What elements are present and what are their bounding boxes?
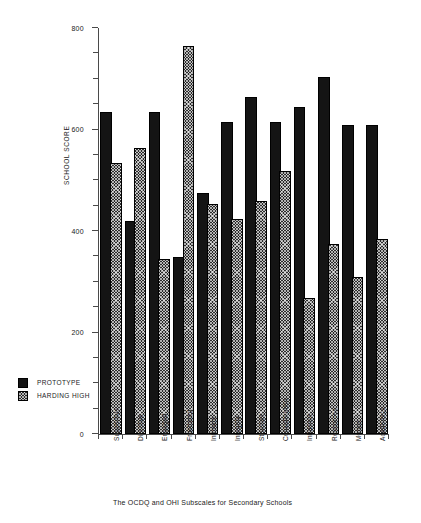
x-axis-label-morale: Morale (355, 420, 362, 441)
x-axis-tick (291, 434, 292, 439)
bar-harding-high (158, 259, 170, 434)
bar-harding-high (231, 219, 243, 434)
chart-caption: The OCDQ and OHI Subscales for Secondary… (113, 499, 292, 506)
bar-group (267, 28, 291, 434)
legend-item-prototype: PROTOTYPE (18, 378, 90, 387)
y-axis-tick-label: 200 (71, 329, 84, 336)
bar-harding-high (376, 239, 388, 434)
x-axis-tick (98, 434, 99, 439)
bar-harding-high (110, 163, 122, 434)
y-axis-tick-label: 400 (71, 227, 84, 234)
y-axis-title: SCHOOL SCORE (63, 126, 70, 185)
legend-swatch-harding-high-icon (18, 391, 28, 401)
x-axis-label-structure: Structure (258, 413, 265, 441)
x-axis-tick (316, 434, 317, 439)
x-axis-label-directive: Directive (137, 414, 144, 441)
bar-group (340, 28, 364, 434)
x-axis-tick (219, 434, 220, 439)
bar-group (98, 28, 122, 434)
x-axis-label-consideration: Consideration (282, 398, 289, 441)
x-axis-label-engaged: Engaged (161, 414, 168, 441)
x-axis-tick (388, 434, 389, 439)
legend-label-harding-high: HARDING HIGH (37, 392, 90, 399)
y-axis-tick-label: 0 (80, 430, 84, 437)
x-axis-tick (267, 434, 268, 439)
bar-group (219, 28, 243, 434)
bar-group (122, 28, 146, 434)
chart-figure: SCHOOL SCORE 0200400600800 PROTOTYPE HAR… (0, 0, 421, 523)
x-axis-label-intimate: Intimate (210, 416, 217, 441)
bar-group (243, 28, 267, 434)
bar-harding-high (183, 46, 195, 434)
x-axis-label-influence: Influence (306, 413, 313, 441)
legend-item-harding-high: HARDING HIGH (18, 391, 90, 400)
bar-harding-high (134, 148, 146, 434)
x-axis-tick (243, 434, 244, 439)
x-axis-label-academics: Academics (379, 407, 386, 441)
x-axis-tick (364, 434, 365, 439)
x-axis-tick (122, 434, 123, 439)
legend-label-prototype: PROTOTYPE (37, 379, 81, 386)
x-axis-tick (195, 434, 196, 439)
x-axis-tick (146, 434, 147, 439)
bar-harding-high (279, 171, 291, 434)
x-axis-tick (340, 434, 341, 439)
bar-harding-high (352, 277, 364, 434)
bar-group (195, 28, 219, 434)
bar-group (316, 28, 340, 434)
bar-group (146, 28, 170, 434)
x-axis-label-frustrated: Frustrated (186, 409, 193, 441)
bar-group (364, 28, 388, 434)
plot-area: 0200400600800 (98, 28, 388, 434)
x-axis-label-integrity: Integrity (234, 416, 241, 441)
x-axis-label-resources: Resources (331, 408, 338, 441)
bar-group (291, 28, 315, 434)
x-axis-tick (171, 434, 172, 439)
y-axis-tick-label: 800 (71, 24, 84, 31)
y-axis-tick-label: 600 (71, 126, 84, 133)
bar-harding-high (328, 244, 340, 434)
bar-harding-high (207, 204, 219, 434)
chart-legend: PROTOTYPE HARDING HIGH (18, 378, 90, 404)
bar-harding-high (255, 201, 267, 434)
x-axis-label-supportive: Supportive (113, 408, 120, 441)
bar-group (171, 28, 195, 434)
legend-swatch-prototype-icon (18, 378, 28, 388)
